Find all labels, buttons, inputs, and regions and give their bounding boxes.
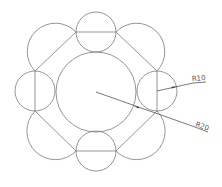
r20-label: R20 <box>194 120 210 132</box>
arc-bottom-right <box>116 111 165 160</box>
r10-label: R10 <box>192 74 206 83</box>
dimension-r10: R10 <box>157 74 206 91</box>
arc-top-left <box>27 23 76 71</box>
arrowhead-icon <box>172 87 177 89</box>
dimension-r20: R20 <box>96 92 210 133</box>
octagon-outline <box>35 32 157 151</box>
arc-top-right <box>116 23 165 71</box>
arc-bottom-left <box>27 111 76 160</box>
cad-drawing-canvas: R10 R20 <box>0 0 222 187</box>
